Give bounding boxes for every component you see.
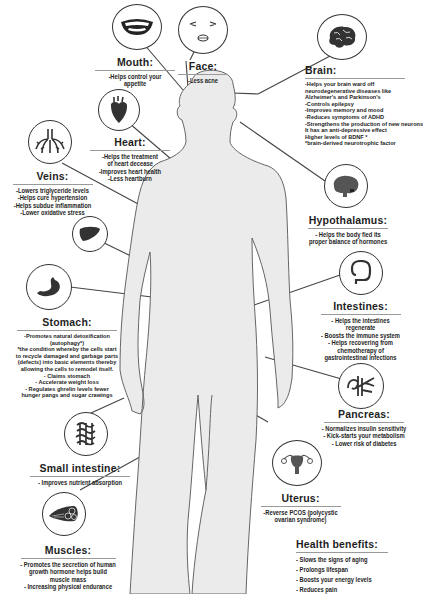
health-benefit-item: - Reduces pain	[296, 585, 397, 594]
veins-item: -Helps subdue inflammation	[9, 202, 96, 209]
small-intestine-title: Small intestine:	[30, 462, 130, 477]
brain-item: -Controls epilepsy	[305, 101, 415, 108]
intestines-item: regenerate	[309, 324, 411, 331]
mouth-smile-icon	[120, 18, 154, 36]
face-block: Face: -Less acne	[168, 56, 238, 84]
face-title: Face:	[178, 60, 228, 75]
pancreas-item: - Kick-starts your metabolism	[316, 432, 412, 439]
brain-item: neurodegenerative diseases like	[305, 88, 415, 95]
pancreas-item: - Lower risk of diabetes	[316, 440, 412, 447]
stomach-icon	[35, 276, 63, 298]
brain-item: -Reduces symptoms of ADHD	[305, 114, 415, 121]
brain-icon-circle	[317, 14, 367, 60]
liver-icon	[79, 226, 101, 242]
uterus-icon	[280, 451, 314, 475]
stomach-icon-circle	[26, 264, 72, 310]
pancreas-icon-circle	[338, 363, 384, 409]
health-benefit-item: - Prolongs lifespan	[296, 565, 397, 575]
stomach-item: *the condition whereby the cells start	[2, 346, 132, 353]
health-benefits-block: Health benefits: - Slows the signs of ag…	[296, 534, 406, 594]
veins-block: Veins: -Lowers triglyceride levels -Help…	[5, 166, 100, 217]
brain-item: -Strengthens the production of new neuro…	[305, 121, 415, 128]
veins-icon	[34, 129, 66, 155]
stomach-item: hunger pangs and sugar crawings	[2, 392, 132, 399]
small-intestine-icon	[74, 421, 98, 447]
uterus-icon-circle	[272, 440, 322, 486]
intestines-item: chemotherapy of	[309, 347, 411, 354]
heart-item: -Helps the treatment	[93, 153, 167, 160]
face-icon	[186, 16, 220, 44]
stomach-item: - Claims stomach	[2, 373, 132, 380]
small-intestine-item: - Improves nutrient absorption	[25, 479, 135, 486]
uterus-block: Uterus: -Reverse PCOS (polycystic ovaria…	[258, 488, 343, 524]
intestines-item: - Helps recovering from	[309, 339, 411, 346]
health-benefit-item: - Slows the signs of aging	[296, 555, 397, 565]
brain-title: Brain:	[305, 64, 405, 79]
veins-icon-circle	[28, 120, 72, 164]
mouth-block: Mouth: -Helps control your appetite	[95, 52, 175, 88]
stomach-block: Stomach: -Promotes natural detoxificatio…	[2, 312, 132, 399]
hypothalamus-title: Hypothalamus:	[308, 214, 388, 229]
intestines-icon-circle	[339, 251, 383, 295]
pancreas-block: Pancreas: - Normalizes insulin sensitivi…	[312, 404, 416, 447]
veins-item: -Lower oxidative stress	[9, 209, 96, 216]
hypothalamus-brain-icon	[331, 174, 361, 198]
muscles-item: - Promotes the secretion of human	[13, 561, 123, 568]
brain-item: Alzheimer's and Parkinson's	[305, 94, 415, 101]
mouth-item: -Helps control your	[98, 73, 172, 80]
muscles-item: - Increasing physical endurance	[13, 583, 123, 590]
intestines-item: gastrointestinal infections	[309, 354, 411, 361]
mouth-icon-circle	[112, 4, 162, 50]
brain-item: -Improves memory and mood	[305, 107, 415, 114]
small-intestine-block: Small intestine: - Improves nutrient abs…	[20, 458, 140, 486]
hypothalamus-item: proper balance of hormones	[302, 238, 394, 245]
heart-icon-circle	[98, 89, 140, 131]
veins-item: -Lowers triglyceride levels	[9, 187, 96, 194]
mouth-title: Mouth:	[95, 56, 175, 71]
mouth-item: appetite	[98, 80, 172, 87]
muscles-item: growth hormone helps build	[13, 568, 123, 575]
intestines-icon	[350, 260, 372, 286]
brain-item: -Helps your brain ward off	[305, 81, 415, 88]
liver-icon-circle	[72, 216, 108, 252]
muscles-title: Muscles:	[21, 544, 116, 559]
brain-block: Brain: -Helps your brain ward off neurod…	[305, 60, 415, 147]
hypothalamus-block: Hypothalamus: - Helps the body fied its …	[298, 210, 398, 246]
brain-item: It has an anti-depressive effect	[305, 127, 415, 134]
hypothalamus-icon-circle	[324, 164, 368, 208]
heart-block: Heart: -Helps the treatment of heart dec…	[90, 132, 170, 183]
heart-item: -Less heartburn	[93, 175, 167, 182]
pancreas-item: - Normalizes insulin sensitivity	[316, 425, 412, 432]
stomach-item: (autophagy*)	[2, 340, 132, 347]
pancreas-title: Pancreas:	[324, 408, 404, 423]
heart-organ-icon	[108, 96, 130, 124]
small-intestine-icon-circle	[64, 412, 108, 456]
brain-item: *brain-derived neurotrophic factor	[305, 140, 415, 147]
uterus-title: Uterus:	[261, 492, 341, 507]
veins-title: Veins:	[13, 170, 93, 185]
uterus-item: ovarian syndrome)	[261, 516, 339, 523]
muscles-icon-circle	[42, 492, 86, 536]
veins-item: -Helps cure hypertension	[9, 194, 96, 201]
pancreas-icon	[346, 374, 376, 398]
hypothalamus-item: - Helps the body fied its	[302, 231, 394, 238]
uterus-item: -Reverse PCOS (polycystic	[261, 509, 339, 516]
health-benefit-item: - Boosts your energy levels	[296, 575, 397, 585]
brain-icon	[326, 24, 358, 50]
heart-title: Heart:	[90, 136, 170, 151]
stomach-item: allowing the cells to remodel itself.	[2, 366, 132, 373]
intestines-block: Intestines: - Helps the intestines regen…	[305, 296, 416, 361]
heart-item: of heart decease	[93, 160, 167, 167]
stomach-item: - Accelerate weight loss	[2, 379, 132, 386]
muscles-item: muscle mass	[13, 576, 123, 583]
stomach-item: (defects) into basic elements thereby	[2, 359, 132, 366]
heart-item: -Improves heart health	[93, 168, 167, 175]
face-item: -Less acne	[171, 77, 235, 84]
stomach-item: - Regulates ghrelin levels fewer	[2, 386, 132, 393]
stomach-connector	[70, 287, 160, 298]
muscle-fiber-icon	[48, 504, 80, 524]
health-benefits-title: Health benefits:	[296, 538, 388, 553]
face-icon-circle	[178, 6, 228, 54]
stomach-item: -Promotes natural detoxification	[2, 333, 132, 340]
stomach-item: to recycle damaged and garbage parts	[2, 353, 132, 360]
